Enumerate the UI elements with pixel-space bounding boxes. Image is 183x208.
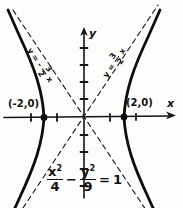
asymptote-right-lhs: y =	[102, 63, 117, 80]
equation-right-hand-side: 1	[113, 173, 122, 186]
equation-minus-sign: −	[66, 173, 77, 186]
hyperbola-right-branch	[124, 10, 160, 208]
equation-y-denominator: 9	[80, 180, 96, 194]
equation-x-denominator: 4	[47, 180, 63, 194]
hyperbola-left-branch	[8, 10, 44, 208]
equation-x-numerator: x2	[47, 165, 63, 180]
x-axis-label: x	[167, 98, 174, 109]
equation-y-numerator: y2	[80, 165, 96, 180]
hyperbola-figure: y x (-2,0) (2,0) y = - 3 2 x y = 3 2 x	[0, 0, 183, 208]
hyperbola-equation: x2 4 − y2 9 = 1	[47, 165, 122, 194]
equation-equals-sign: =	[99, 173, 110, 186]
equation-y-exponent: 2	[89, 164, 95, 173]
equation-y-term: y2 9	[80, 165, 96, 194]
x-axis	[4, 112, 176, 120]
y-axis-label: y	[89, 28, 96, 39]
equation-x-exponent: 2	[56, 164, 62, 173]
left-vertex-label: (-2,0)	[8, 99, 39, 109]
equation-x-term: x2 4	[47, 165, 63, 194]
right-vertex-label: (2,0)	[126, 98, 153, 108]
